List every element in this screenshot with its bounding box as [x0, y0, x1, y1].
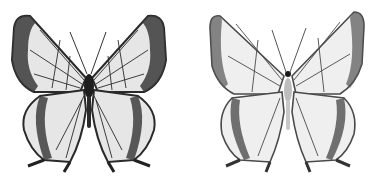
butterfly-ventral-illustration — [188, 0, 376, 184]
butterfly-dorsal-illustration — [0, 0, 188, 184]
butterfly-dorsal — [0, 0, 188, 184]
butterfly-ventral — [188, 0, 376, 184]
